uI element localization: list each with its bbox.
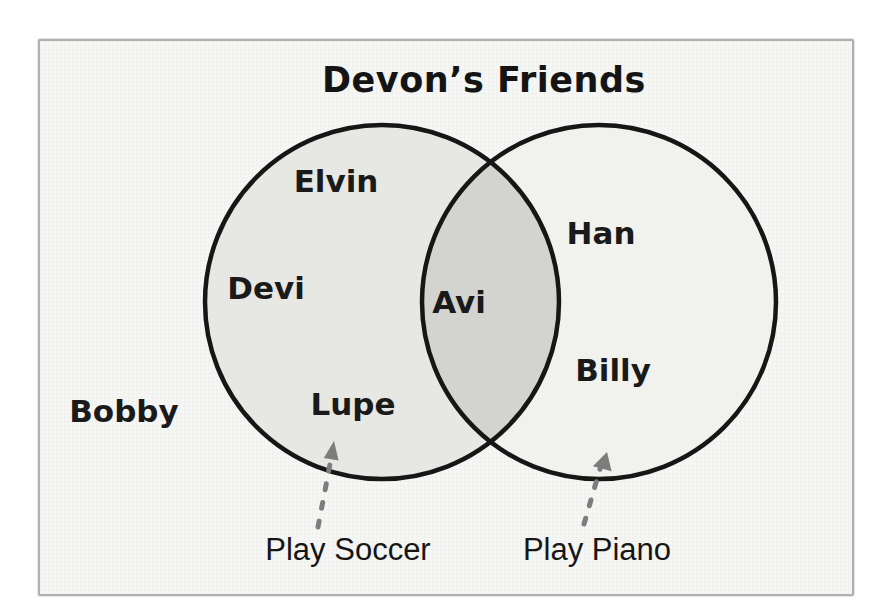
member-label-elvin: Elvin xyxy=(294,163,379,199)
right-set-label: Play Piano xyxy=(523,532,671,567)
left-set-label: Play Soccer xyxy=(265,532,430,567)
member-label-han: Han xyxy=(567,215,636,251)
worksheet-scan: Devon’s Friends Elvin Devi Lupe Avi Han … xyxy=(0,0,887,615)
member-label-billy: Billy xyxy=(575,352,651,388)
member-label-lupe: Lupe xyxy=(310,386,395,422)
member-label-avi: Avi xyxy=(432,284,486,320)
venn-diagram: Devon’s Friends Elvin Devi Lupe Avi Han … xyxy=(0,0,887,615)
member-label-devi: Devi xyxy=(227,270,305,306)
member-label-bobby: Bobby xyxy=(69,393,179,429)
diagram-title: Devon’s Friends xyxy=(322,60,646,100)
